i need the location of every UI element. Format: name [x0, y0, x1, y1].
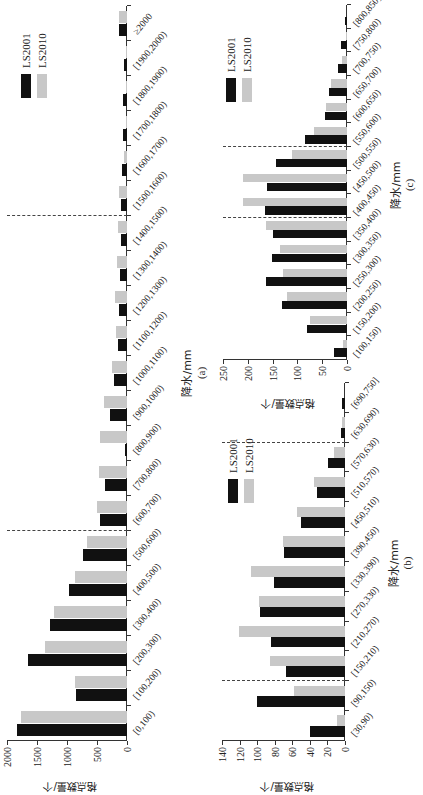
bar-ls2010: [243, 198, 347, 207]
x-tick: [127, 215, 131, 216]
bar-ls2001: [114, 374, 127, 387]
bar-ls2001: [301, 517, 345, 528]
bar-ls2010: [342, 417, 345, 428]
legend-swatch-gray: [37, 74, 47, 98]
y-tick: [240, 741, 241, 745]
x-tick-label: [150,210): [349, 644, 381, 679]
bar-ls2010: [54, 606, 127, 619]
x-tick: [127, 670, 131, 671]
chart-c: 050100150200250[100,150)[150,200)[200,25…: [215, 0, 423, 370]
x-tick: [345, 591, 349, 592]
x-tick-label: [300,400): [131, 597, 163, 632]
y-tick: [257, 741, 258, 745]
x-tick-label: [200,300): [131, 632, 163, 667]
bar-ls2010: [266, 221, 347, 230]
bar-ls2010: [270, 656, 345, 667]
x-tick: [127, 495, 131, 496]
bar-ls2001: [76, 689, 127, 702]
legend-swatch-black: [21, 74, 31, 98]
x-tick: [127, 110, 131, 111]
y-tick: [310, 741, 311, 745]
chart-c-x-axis-title: 降水/mm: [387, 145, 403, 225]
x-tick-label: [330,390): [349, 554, 381, 589]
x-tick: [345, 382, 349, 383]
x-tick-label: [630,690): [349, 405, 381, 440]
x-tick: [345, 561, 349, 562]
bar-ls2001: [17, 724, 127, 737]
bar-ls2010: [119, 186, 127, 199]
bar-ls2010: [124, 151, 127, 164]
legend-item-ls2001: LS2001: [18, 33, 34, 98]
bar-ls2001: [100, 514, 127, 527]
chart-b-plot: 020406080100120140[30,90)[90,150)[150,21…: [222, 383, 345, 741]
bar-ls2001: [325, 112, 347, 121]
y-tick-label: 250: [218, 366, 229, 381]
bar-ls2001: [305, 135, 347, 144]
dashed-divider: [223, 217, 347, 218]
bar-ls2001: [121, 199, 127, 212]
bar-ls2010: [243, 174, 347, 183]
bar-ls2001: [345, 17, 347, 26]
x-tick: [127, 355, 131, 356]
x-tick-label: [900,1000): [131, 383, 166, 422]
bar-ls2010: [118, 221, 127, 234]
x-tick-label: [690,750]: [349, 375, 381, 410]
y-axis-line: [223, 359, 347, 360]
bar-ls2010: [45, 641, 127, 654]
x-tick: [347, 170, 351, 171]
bar-ls2001: [123, 94, 127, 107]
bar-ls2001: [271, 637, 345, 648]
bar-ls2001: [284, 547, 346, 558]
bar-ls2001: [342, 398, 346, 409]
x-tick: [127, 40, 131, 41]
y-tick: [292, 741, 293, 745]
x-tick: [127, 460, 131, 461]
x-tick: [347, 217, 351, 218]
chart-c-caption: (c): [403, 165, 415, 205]
y-tick: [127, 741, 128, 745]
y-tick-label: 100: [292, 366, 303, 381]
bar-ls2001: [329, 88, 347, 97]
y-tick-label: 20: [322, 747, 333, 757]
x-tick: [127, 600, 131, 601]
legend-item-ls2010: LS2010: [239, 37, 255, 102]
chart-a-plot: 0500100015002000[0,100)[100,200)[200,300…: [7, 6, 127, 741]
y-tick-label: 120: [234, 747, 245, 762]
bar-ls2010: [331, 79, 347, 88]
bar-ls2001: [123, 129, 128, 142]
x-tick: [347, 335, 351, 336]
y-axis-title: 格点数量/个: [261, 397, 315, 412]
y-tick: [223, 360, 224, 364]
bar-ls2010: [115, 291, 127, 304]
x-tick-label: [450,510): [349, 495, 381, 530]
x-tick: [345, 412, 349, 413]
x-tick: [127, 425, 131, 426]
legend-label: LS2001: [225, 37, 237, 72]
bar-ls2001: [273, 230, 347, 239]
x-tick-label: [100,200): [131, 667, 163, 702]
x-tick-label: ≥2000: [131, 12, 154, 37]
x-tick: [347, 241, 351, 242]
bar-ls2001: [83, 549, 127, 562]
x-tick: [127, 5, 131, 6]
bar-ls2010: [334, 447, 345, 458]
y-tick-label: 100: [252, 747, 263, 762]
x-tick: [127, 75, 131, 76]
bar-ls2010: [283, 536, 345, 547]
legend-item-ls2010: LS2010: [34, 33, 50, 98]
bar-ls2010: [112, 361, 127, 374]
x-tick: [345, 621, 349, 622]
legend-label: LS2001: [20, 33, 32, 68]
bar-ls2010: [99, 466, 127, 479]
x-tick: [347, 288, 351, 289]
dashed-divider: [7, 215, 127, 216]
bar-ls2001: [121, 234, 127, 247]
bar-ls2001: [122, 164, 127, 177]
legend-label: LS2010: [243, 438, 255, 473]
y-tick: [7, 741, 8, 745]
bar-ls2010: [310, 316, 347, 325]
x-tick: [127, 285, 131, 286]
legend-item-ls2010: LS2010: [241, 438, 257, 503]
x-tick: [347, 99, 351, 100]
